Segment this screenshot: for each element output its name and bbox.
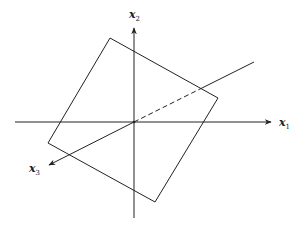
x2-label: x2 [128, 8, 140, 23]
x3-label: x3 [28, 162, 40, 177]
x3-axis-front [49, 122, 134, 165]
plane-square [48, 38, 218, 202]
coordinate-diagram: x2 x1 x3 [0, 0, 307, 226]
x1-label: x1 [278, 116, 290, 131]
origin-point [133, 121, 136, 124]
x3-axis-hidden-dashed [134, 88, 202, 122]
x3-axis-back [202, 62, 254, 88]
